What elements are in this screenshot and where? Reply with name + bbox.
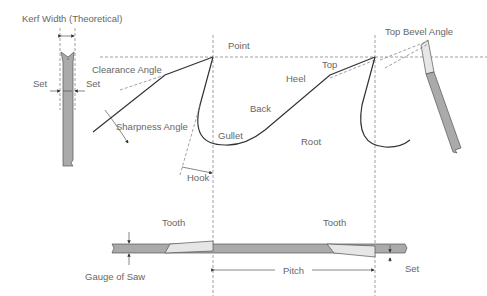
top-view-blade <box>112 232 407 270</box>
label-top: Top <box>322 59 337 70</box>
label-pitch: Pitch <box>283 265 304 276</box>
label-gauge-of-saw: Gauge of Saw <box>85 271 145 282</box>
label-root: Root <box>301 136 321 147</box>
label-sharpness-angle: Sharpness Angle <box>116 121 188 132</box>
label-set-bottom: Set <box>405 263 420 274</box>
label-clearance-angle: Clearance Angle <box>92 64 162 75</box>
label-tooth-left: Tooth <box>162 217 185 228</box>
label-set-left: Set <box>33 78 48 89</box>
label-top-bevel-angle: Top Bevel Angle <box>385 26 453 37</box>
label-hook: Hook <box>187 172 209 183</box>
saw-tooth-diagram: Kerf Width (Theoretical) Set Set Clearan… <box>0 0 487 296</box>
label-tooth-right: Tooth <box>323 217 346 228</box>
label-back: Back <box>250 103 271 114</box>
side-view-blade <box>50 28 85 166</box>
label-set-right: Set <box>86 78 101 89</box>
label-heel: Heel <box>286 73 306 84</box>
diagram-canvas: Kerf Width (Theoretical) Set Set Clearan… <box>0 0 487 296</box>
label-point: Point <box>228 40 250 51</box>
label-gullet: Gullet <box>218 130 243 141</box>
label-kerf-width: Kerf Width (Theoretical) <box>22 13 122 24</box>
